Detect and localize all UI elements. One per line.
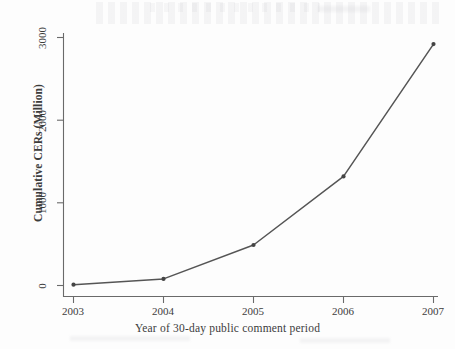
plot-area: [0, 0, 455, 349]
data-point-2005: [251, 243, 255, 247]
xtick-label-2003: 2003: [50, 305, 96, 317]
data-point-2003: [71, 283, 75, 287]
xtick-label-2004: 2004: [140, 305, 186, 317]
xtick-label-2007: 2007: [410, 305, 455, 317]
data-point-2007: [431, 42, 435, 46]
xtick-label-2006: 2006: [320, 305, 366, 317]
x-axis-title: Year of 30-day public comment period: [0, 322, 455, 334]
xtick-label-2005: 2005: [230, 305, 276, 317]
data-point-markers: [71, 42, 435, 287]
data-point-2004: [161, 277, 165, 281]
ytick-label-0: 0: [36, 271, 48, 301]
y-axis-title: Cumulative CERs (Million): [32, 53, 44, 253]
data-series-line: [74, 44, 434, 285]
chart-figure: 0 1000 2000 3000 2003 2004 2005 2006 200…: [0, 0, 455, 349]
data-point-2006: [341, 174, 345, 178]
